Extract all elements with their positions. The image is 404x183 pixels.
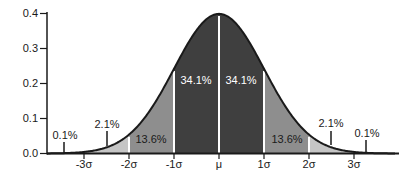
x-tick-label-1sigma: 1σ <box>246 158 282 170</box>
y-tick-label-0-4: 0.4 <box>12 7 38 19</box>
percent-label-left-center: 34.1% <box>174 74 218 86</box>
y-tick-label-0-0: 0.0 <box>12 147 38 159</box>
x-tick-label-minus-1sigma: -1σ <box>156 158 192 170</box>
x-tick-label-3sigma: 3σ <box>336 158 372 170</box>
x-tick-label-minus-2sigma: -2σ <box>111 158 147 170</box>
y-tick-label-0-2: 0.2 <box>12 77 38 89</box>
y-tick-label-0-1: 0.1 <box>12 112 38 124</box>
y-tick-label-0-3: 0.3 <box>12 42 38 54</box>
x-tick-label-minus-3sigma: -3σ <box>66 158 102 170</box>
percent-label-left-tail: 0.1% <box>43 129 87 141</box>
percent-label-left-1sigma: 13.6% <box>129 133 173 145</box>
distribution-curve-svg <box>0 0 404 183</box>
x-tick-label-2sigma: 2σ <box>291 158 327 170</box>
percent-label-right-center: 34.1% <box>219 74 263 86</box>
percent-label-right-1sigma: 13.6% <box>265 133 309 145</box>
percent-label-right-tail: 0.1% <box>345 127 389 139</box>
percent-label-left-2sigma: 2.1% <box>85 118 129 130</box>
normal-distribution-chart: 0.4 0.3 0.2 0.1 0.0 -3σ -2σ -1σ μ 1σ 2σ … <box>0 0 404 183</box>
x-tick-label-mu: μ <box>201 158 237 170</box>
